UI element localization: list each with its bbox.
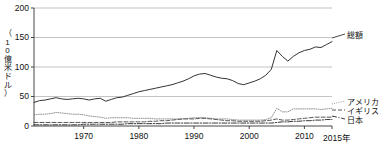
legend-label-japan: 日本 — [347, 114, 363, 125]
series-line-1 — [34, 108, 332, 120]
series-line-0 — [34, 42, 332, 103]
legend-label-total: 総額 — [347, 29, 363, 40]
legend-swatch-usa — [332, 101, 345, 104]
plot-area — [0, 0, 383, 150]
legend-swatch-japan — [332, 116, 345, 119]
legend-swatch-total — [332, 34, 345, 38]
chart-container: （ 1 0 億 米 ド ル ） 050100150200 19701980199… — [0, 0, 383, 150]
